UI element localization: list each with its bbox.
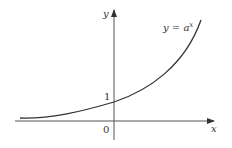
- exponential-graph: y x 1 0 y = ax: [0, 0, 232, 148]
- curve-label: y = ax: [162, 21, 193, 33]
- curve-label-base: y = a: [162, 22, 189, 33]
- exponential-curve: [20, 20, 201, 118]
- y-intercept-label: 1: [104, 91, 110, 102]
- x-axis-label: x: [211, 123, 217, 134]
- y-axis-label: y: [102, 8, 109, 19]
- origin-label: 0: [103, 124, 109, 135]
- curve-label-exponent: x: [189, 21, 193, 29]
